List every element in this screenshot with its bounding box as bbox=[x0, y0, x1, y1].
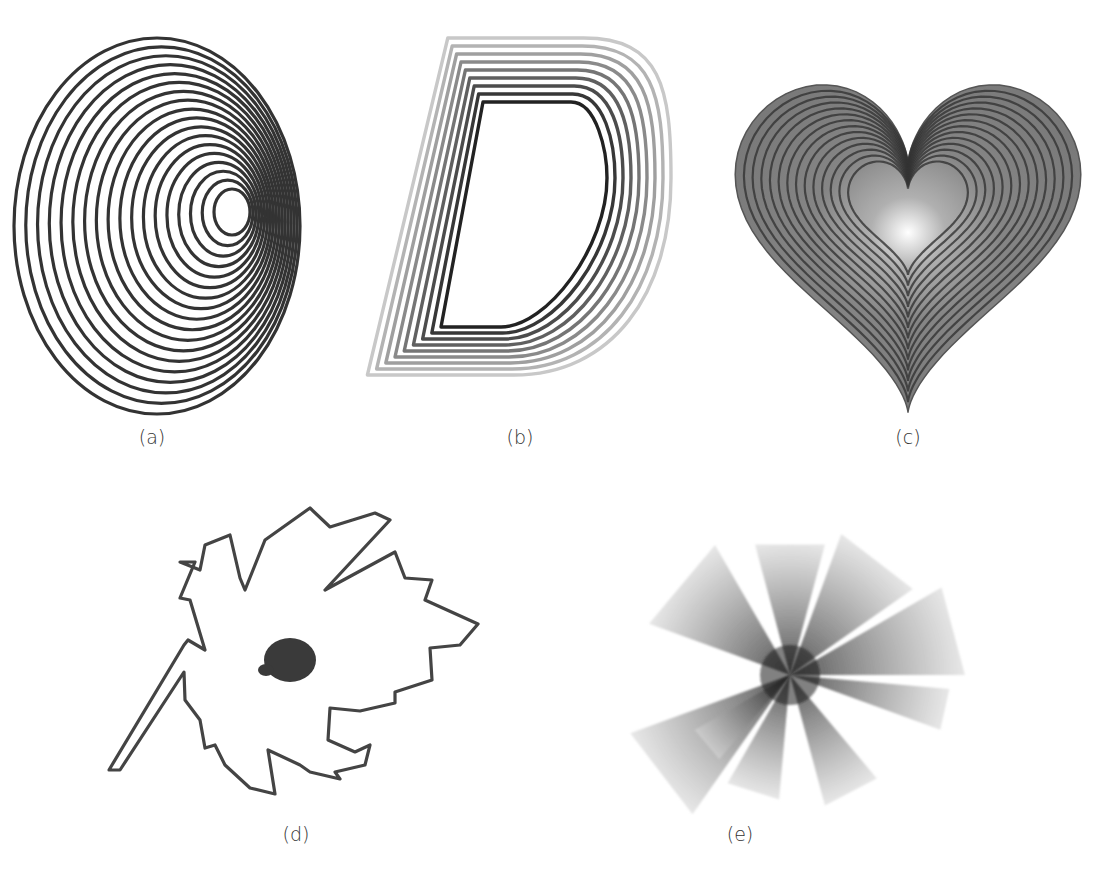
starburst-core bbox=[760, 645, 820, 705]
caption-a: (a) bbox=[139, 426, 165, 448]
panel-c-heart bbox=[735, 85, 1081, 413]
caption-e: (e) bbox=[727, 823, 754, 845]
panel-e-starburst bbox=[630, 534, 965, 814]
leaf-blob bbox=[258, 664, 274, 676]
ring bbox=[214, 189, 250, 235]
panel-a-rings bbox=[14, 38, 300, 414]
panel-d-leaf bbox=[109, 508, 478, 794]
ring bbox=[190, 171, 255, 256]
caption-c: (c) bbox=[895, 426, 920, 448]
leaf-blob bbox=[264, 638, 316, 682]
figure-canvas bbox=[0, 0, 1110, 877]
caption-d: (d) bbox=[283, 823, 310, 845]
caption-b: (b) bbox=[507, 426, 534, 448]
panel-b-letter-d bbox=[367, 38, 671, 375]
